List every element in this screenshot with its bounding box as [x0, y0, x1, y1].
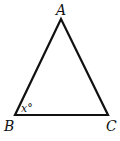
vertex-label-b: B — [3, 118, 14, 134]
vertex-label-a: A — [54, 2, 66, 18]
triangle-diagram: A B C x° — [0, 0, 120, 141]
triangle-abc — [15, 19, 108, 115]
vertex-label-c: C — [106, 118, 117, 134]
angle-label-x: x° — [21, 102, 33, 115]
